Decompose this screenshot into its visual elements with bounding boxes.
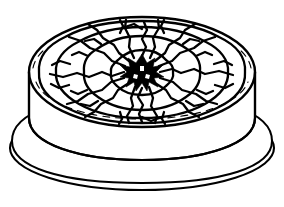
cake-top-group [29, 17, 255, 127]
cake-line-art: Coloring book illustration of a cake on … [0, 0, 284, 207]
starburst-notch [140, 66, 144, 71]
illustration-canvas: Line drawing of a round crackle-topped c… [0, 0, 284, 207]
